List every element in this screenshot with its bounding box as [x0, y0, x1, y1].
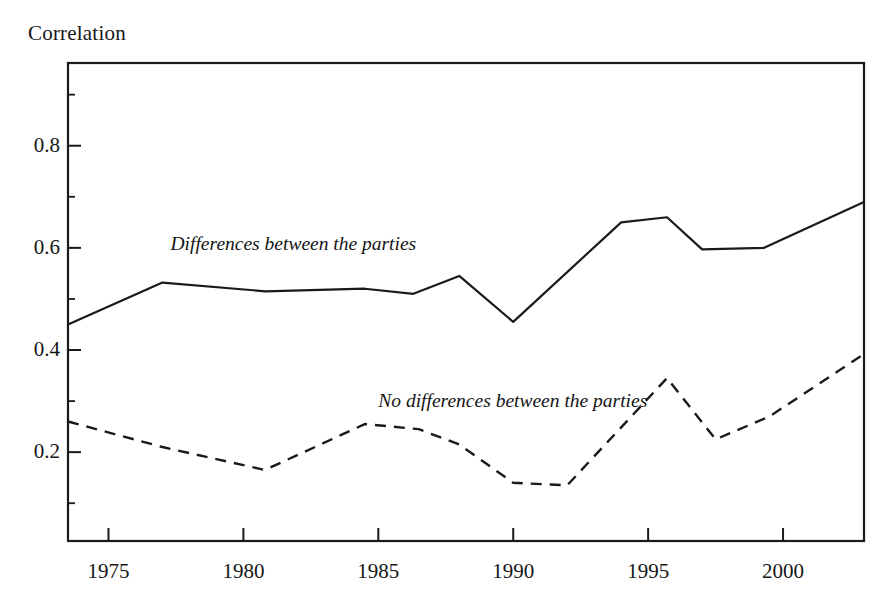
axis-ticks [68, 95, 783, 541]
series-line-1 [68, 354, 864, 485]
series-line-0 [68, 202, 864, 325]
plot-area [0, 0, 884, 604]
plot-frame [68, 63, 864, 541]
correlation-line-chart: Correlation 0.20.40.60.8 197519801985199… [0, 0, 884, 604]
series-label-no-differences: No differences between the parties [378, 390, 647, 412]
series-label-differences: Differences between the parties [171, 233, 417, 255]
plot-border [68, 63, 864, 541]
